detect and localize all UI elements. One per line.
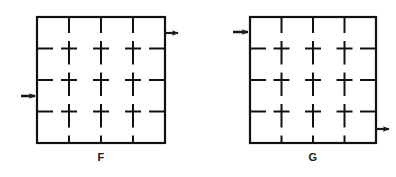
figure-f-label: F [81,151,121,163]
figure-g-label: G [293,151,333,163]
diagram-stage: F G [0,0,396,177]
figure-g [233,17,389,143]
grid-figures-diagram [0,0,396,177]
figure-f [21,17,178,143]
